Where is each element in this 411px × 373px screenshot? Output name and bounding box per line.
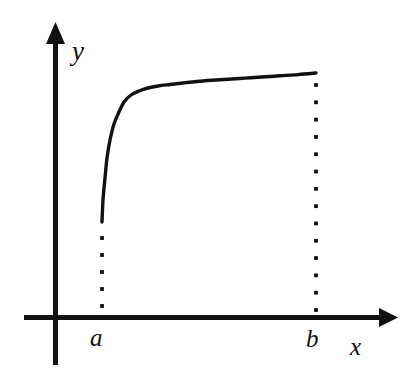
- x-axis-label: x: [350, 334, 361, 359]
- dot-mark: [314, 187, 318, 191]
- dot-mark: [314, 83, 318, 87]
- right-bound-label-b: b: [306, 326, 319, 351]
- figure-canvas: y x a b: [0, 0, 411, 373]
- dot-mark: [314, 291, 318, 295]
- dot-mark: [314, 152, 318, 156]
- dot-mark: [314, 273, 318, 277]
- function-graph-svg: [0, 0, 411, 373]
- dot-mark: [100, 236, 104, 240]
- dot-mark: [314, 118, 318, 122]
- dot-mark: [100, 287, 104, 291]
- dot-mark: [314, 135, 318, 139]
- dot-mark: [314, 256, 318, 260]
- dot-mark: [314, 170, 318, 174]
- dot-mark: [314, 239, 318, 243]
- y-axis-label: y: [72, 38, 84, 65]
- dot-mark: [100, 304, 104, 308]
- dot-mark: [314, 222, 318, 226]
- dot-mark: [100, 253, 104, 257]
- left-bound-label-a: a: [90, 325, 103, 350]
- dot-mark: [314, 308, 318, 312]
- dot-mark: [314, 100, 318, 104]
- dot-mark: [100, 270, 104, 274]
- dot-mark: [314, 204, 318, 208]
